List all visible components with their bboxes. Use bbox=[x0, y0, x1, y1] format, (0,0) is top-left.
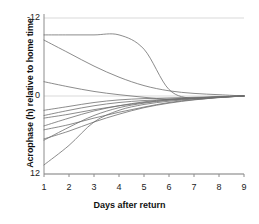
x-tick-label-4: 4 bbox=[109, 182, 129, 192]
axis-lines bbox=[44, 14, 244, 174]
data-series-layer bbox=[44, 34, 244, 165]
x-tick-label-7: 7 bbox=[184, 182, 204, 192]
x-tick-label-1: 1 bbox=[34, 182, 54, 192]
y-axis-title: Acrophase (h) relative to home time bbox=[25, 0, 35, 188]
x-tick-label-3: 3 bbox=[84, 182, 104, 192]
x-tick-label-8: 8 bbox=[209, 182, 229, 192]
gridlines bbox=[44, 18, 244, 174]
x-tick-label-5: 5 bbox=[134, 182, 154, 192]
x-tick-label-9: 9 bbox=[234, 182, 254, 192]
chart-container: -12 0 12 1 2 3 4 5 6 7 8 9 Acrophase (h)… bbox=[0, 0, 259, 224]
x-tick-label-2: 2 bbox=[59, 182, 79, 192]
series-line bbox=[44, 96, 244, 165]
series-line bbox=[44, 34, 244, 99]
x-axis-title: Days after return bbox=[0, 200, 259, 210]
x-tick-label-6: 6 bbox=[159, 182, 179, 192]
